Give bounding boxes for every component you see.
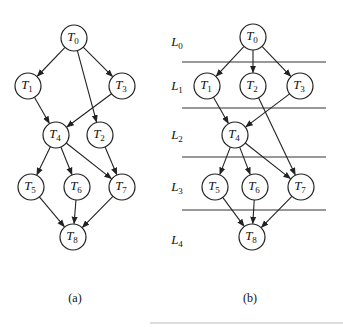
edge-t0-to-t2 xyxy=(77,51,96,122)
panel-b-leveled-task-graph: L0L1L2L3L4T0T1T2T3T4T5T6T7T8 xyxy=(170,24,326,250)
edge-t4-to-t5 xyxy=(220,147,230,174)
edge-t4-to-t5 xyxy=(37,147,51,175)
task-node-t3: T3 xyxy=(287,73,313,99)
edge-t4-to-t7 xyxy=(66,143,111,179)
edge-t7-to-t8 xyxy=(261,196,291,227)
task-node-t4: T4 xyxy=(222,122,248,148)
level-label-4: L4 xyxy=(170,232,183,249)
edge-t1-to-t4 xyxy=(34,97,49,123)
task-node-t5: T5 xyxy=(18,174,44,200)
level-label-3: L3 xyxy=(170,179,183,196)
task-node-t2: T2 xyxy=(87,122,113,148)
task-node-t0: T0 xyxy=(61,25,87,51)
level-label-0: L0 xyxy=(170,34,183,51)
level-label-2: L2 xyxy=(170,127,183,144)
task-node-t2: T2 xyxy=(240,73,266,99)
task-node-t8: T8 xyxy=(60,224,86,250)
edge-t5-to-t8 xyxy=(223,197,244,226)
edge-t0-to-t1 xyxy=(37,47,65,76)
panel-a-task-graph: T0T1T3T4T2T5T6T7T8 xyxy=(15,25,135,250)
task-node-t8: T8 xyxy=(239,224,265,250)
edge-t0-to-t3 xyxy=(83,47,112,76)
edge-t2-to-t7 xyxy=(105,147,117,175)
task-node-t7: T7 xyxy=(288,174,314,200)
edge-t3-to-t4 xyxy=(67,94,112,127)
edge-t7-to-t8 xyxy=(82,196,112,227)
task-node-t7: T7 xyxy=(109,174,135,200)
task-node-t5: T5 xyxy=(202,174,228,200)
edge-t6-to-t8 xyxy=(253,200,254,224)
task-node-t1: T1 xyxy=(15,73,41,99)
edge-t4-to-t7 xyxy=(245,143,290,179)
edge-t0-to-t3 xyxy=(262,46,291,76)
edge-t4-to-t6 xyxy=(240,147,250,174)
task-node-t0: T0 xyxy=(240,24,266,50)
edge-t0-to-t1 xyxy=(216,46,244,76)
edge-t1-to-t4 xyxy=(213,97,228,123)
task-node-t4: T4 xyxy=(43,122,69,148)
task-node-t6: T6 xyxy=(64,174,90,200)
task-node-t6: T6 xyxy=(242,174,268,200)
level-label-1: L1 xyxy=(170,78,183,95)
caption-a: (a) xyxy=(68,291,81,305)
task-node-t1: T1 xyxy=(194,73,220,99)
edge-t2-to-t7 xyxy=(259,98,296,175)
edge-t5-to-t8 xyxy=(39,197,64,227)
edge-t4-to-t6 xyxy=(61,147,72,174)
caption-b: (b) xyxy=(243,291,257,305)
task-node-t3: T3 xyxy=(109,73,135,99)
edge-t6-to-t8 xyxy=(74,200,76,224)
task-graph-figure: T0T1T3T4T2T5T6T7T8 L0L1L2L3L4T0T1T2T3T4T… xyxy=(0,0,343,327)
